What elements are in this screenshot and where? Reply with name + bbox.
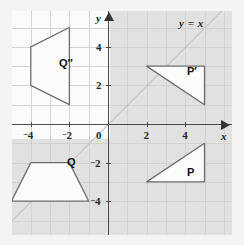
y-tick-label: –4 [91, 196, 101, 207]
shape-p [147, 143, 205, 182]
shape-label-q: Q [67, 156, 76, 168]
shape-layer [12, 11, 232, 235]
shape-label-q-double-prime: Q″ [59, 57, 73, 69]
shape-label-p-prime: P′ [187, 65, 197, 77]
x-tick-label: 2 [144, 130, 150, 141]
y-tick-label: 2 [96, 80, 102, 91]
shape-q [12, 163, 89, 202]
shape-label-p: P [187, 166, 194, 178]
y-tick-label: 4 [96, 42, 102, 53]
origin-label: 0 [96, 130, 102, 141]
y-tick-label: –2 [91, 158, 101, 169]
x-tick-label: –4 [24, 130, 34, 141]
line-equation-label: y = x [179, 17, 204, 29]
x-tick-label: –2 [62, 130, 72, 141]
y-axis-label: y [96, 12, 101, 24]
x-tick-label: 4 [182, 130, 188, 141]
figure-canvas: –4–22442–2–40xyy = xQ″P′QP [0, 0, 244, 245]
x-axis-label: x [221, 130, 227, 142]
coordinate-plane: –4–22442–2–40xyy = xQ″P′QP [12, 11, 232, 235]
